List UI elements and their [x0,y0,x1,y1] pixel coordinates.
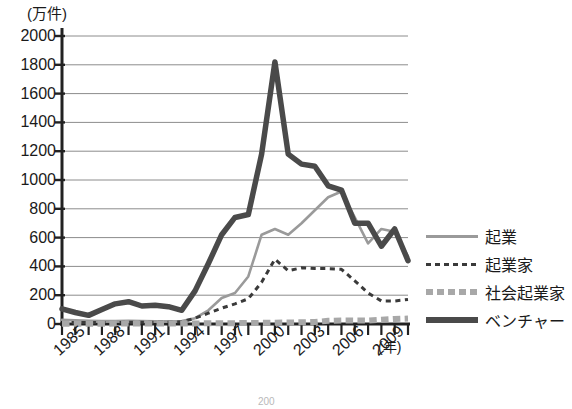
legend-swatch-kigyo-icon [426,229,478,243]
x-tick-label: 1991 [130,322,168,359]
legend-label-venture: ベンチャー [485,308,565,332]
x-axis-label: (年) [378,336,401,356]
legend-label-kigyo: 起業 [485,224,517,248]
page-number: 200 [258,396,275,407]
x-tick-label: 1994 [170,322,208,359]
x-tick-label: 2000 [250,322,288,359]
legend-swatch-venture-icon [426,313,478,327]
chart-container: (万件) 02004006008001000120014001600180020… [0,0,572,409]
legend-label-shakai-kigyoka: 社会起業家 [485,280,565,304]
legend-swatch-kigyoka-icon [426,257,478,271]
x-tick-label: 2003 [290,322,328,359]
legend-label-kigyoka: 起業家 [485,252,533,276]
x-tick-label: 2006 [329,322,367,359]
legend-item-venture: ベンチャー [426,306,572,334]
x-tick-label: 1985 [50,322,88,359]
x-tick-label: 1988 [90,322,128,359]
chart-legend: 起業 起業家 社会起業家 ベンチャー [426,222,572,334]
legend-item-kigyoka: 起業家 [426,250,572,278]
x-tick-label: 1997 [210,322,248,359]
x-axis-tick-labels: 198519881991199419972000200320062009 [0,0,572,409]
legend-item-shakai-kigyoka: 社会起業家 [426,278,572,306]
legend-swatch-shakai-kigyoka-icon [426,285,478,299]
legend-item-kigyo: 起業 [426,222,572,250]
